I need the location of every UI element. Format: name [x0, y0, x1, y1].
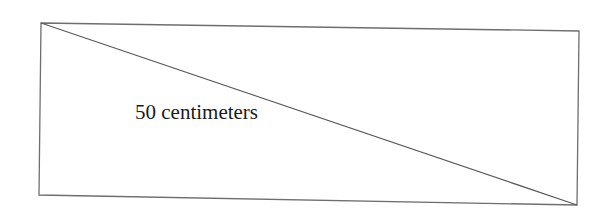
diagonal-length-label: 50 centimeters — [135, 102, 258, 123]
rectangle-diagram — [0, 0, 611, 219]
diagonal-line — [41, 23, 577, 205]
